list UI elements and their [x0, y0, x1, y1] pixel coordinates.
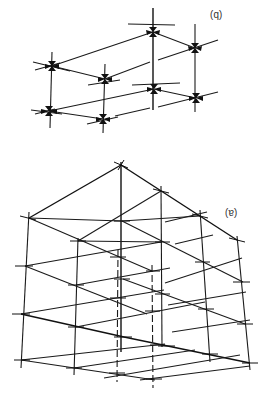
panel-a-label: (a)	[225, 208, 237, 219]
joint-ticks	[12, 160, 258, 379]
panel-b-lattice	[31, 8, 218, 133]
panel-a-frame	[12, 160, 258, 388]
panel-b-label: (b)	[210, 10, 222, 21]
diagram-canvas	[0, 0, 273, 403]
